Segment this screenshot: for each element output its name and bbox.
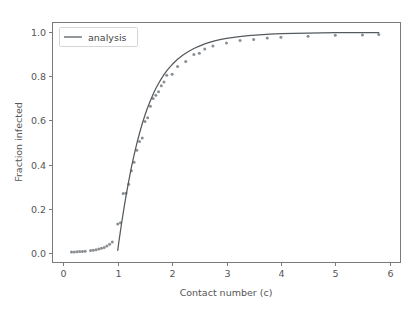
- data-point: [92, 249, 95, 252]
- data-point: [141, 137, 144, 140]
- x-tick-label-4: 4: [278, 268, 284, 279]
- data-point: [334, 34, 337, 37]
- x-tick-label-2: 2: [169, 268, 175, 279]
- y-axis-tick-labels: 0.00.20.40.60.81.0: [31, 27, 46, 259]
- data-point: [377, 33, 380, 36]
- x-tick-label-5: 5: [332, 268, 338, 279]
- y-tick-label-1: 0.2: [31, 204, 46, 215]
- data-point: [116, 222, 119, 225]
- data-point: [81, 250, 84, 253]
- data-point: [108, 243, 111, 246]
- data-point: [225, 41, 228, 44]
- data-point: [198, 52, 201, 55]
- data-point: [89, 249, 92, 252]
- data-point: [165, 74, 168, 77]
- data-point: [192, 53, 195, 56]
- data-point: [307, 35, 310, 38]
- data-point: [111, 241, 114, 244]
- data-point: [252, 38, 255, 41]
- data-point: [95, 248, 98, 251]
- y-tick-label-3: 0.6: [31, 115, 46, 126]
- data-point: [146, 116, 149, 119]
- y-tick-label-2: 0.4: [31, 160, 46, 171]
- data-point: [176, 65, 179, 68]
- data-point: [75, 250, 78, 253]
- data-point: [184, 60, 187, 63]
- x-tick-label-0: 0: [60, 268, 66, 279]
- line-series-analysis: [118, 33, 379, 251]
- data-point: [162, 80, 165, 83]
- data-point: [154, 94, 157, 97]
- data-point: [279, 36, 282, 39]
- legend[interactable]: analysis: [60, 28, 138, 47]
- x-axis-tick-labels: 0123456: [60, 268, 393, 279]
- axes-frame: [53, 23, 401, 263]
- data-point: [103, 246, 106, 249]
- data-point: [211, 45, 214, 48]
- data-point: [84, 250, 87, 253]
- y-tick-label-4: 0.8: [31, 71, 46, 82]
- data-point: [73, 250, 76, 253]
- y-axis-ticks: [49, 33, 53, 254]
- scatter-series-simulation: [70, 33, 380, 253]
- y-axis-label: Fraction infected: [13, 102, 24, 182]
- x-tick-label-1: 1: [115, 268, 121, 279]
- data-point: [203, 47, 206, 50]
- data-point: [78, 250, 81, 253]
- data-point: [105, 244, 108, 247]
- y-tick-label-0: 0.0: [31, 248, 46, 259]
- data-point: [97, 248, 100, 251]
- data-point: [100, 247, 103, 250]
- data-point: [149, 105, 152, 108]
- data-point: [157, 90, 160, 93]
- x-tick-label-6: 6: [387, 268, 393, 279]
- y-tick-label-5: 1.0: [31, 27, 46, 38]
- x-axis-label: Contact number (c): [180, 287, 273, 298]
- data-point: [266, 36, 269, 39]
- data-point: [70, 250, 73, 253]
- data-point: [138, 140, 141, 143]
- data-point: [239, 39, 242, 42]
- chart-figure: 0123456 0.00.20.40.60.81.0 analysis Cont…: [0, 0, 420, 312]
- data-point: [361, 34, 364, 37]
- data-point: [160, 84, 163, 87]
- x-axis-ticks: [64, 263, 391, 267]
- data-point: [122, 192, 125, 195]
- data-point: [171, 73, 174, 76]
- x-tick-label-3: 3: [224, 268, 230, 279]
- plot-canvas: 0123456 0.00.20.40.60.81.0 analysis Cont…: [0, 0, 420, 312]
- legend-label-analysis: analysis: [88, 32, 127, 43]
